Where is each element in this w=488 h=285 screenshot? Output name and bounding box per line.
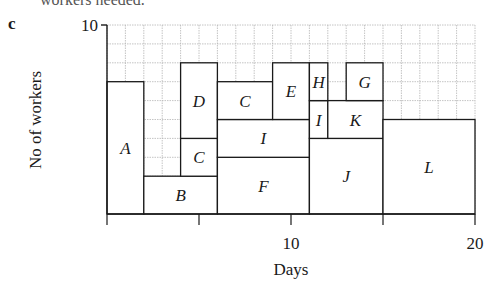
activity-block-h: H — [309, 63, 327, 101]
activity-block-a: A — [107, 82, 144, 214]
activity-block-d: D — [181, 63, 218, 139]
activity-block-g: G — [346, 63, 383, 101]
activity-block-i: I — [217, 120, 309, 158]
activity-block-c: C — [217, 82, 272, 120]
x-tick-label: 20 — [467, 234, 484, 253]
x-tick-label: 10 — [283, 234, 300, 253]
activity-label: L — [423, 158, 433, 177]
activity-block-f: F — [217, 157, 309, 214]
activity-block-i: I — [309, 101, 327, 139]
activity-label: D — [192, 92, 206, 111]
activity-block-e: E — [273, 63, 310, 120]
activity-block-k: K — [328, 101, 383, 139]
activity-label: C — [239, 92, 251, 111]
resource-histogram-chart: ABCDFICEJIKHGL 101020 — [0, 0, 488, 285]
activity-block-b: B — [144, 176, 218, 214]
activity-label: A — [119, 139, 131, 158]
activity-label: K — [349, 111, 363, 130]
activity-label: B — [175, 186, 186, 205]
y-tick-label: 10 — [81, 16, 98, 35]
activity-label: F — [257, 177, 269, 196]
activity-block-c: C — [181, 138, 218, 176]
activity-label: C — [193, 148, 205, 167]
activity-block-j: J — [309, 138, 383, 214]
activity-label: E — [285, 82, 297, 101]
activity-block-l: L — [383, 120, 475, 215]
activity-label: H — [311, 73, 326, 92]
activity-label: G — [358, 73, 370, 92]
